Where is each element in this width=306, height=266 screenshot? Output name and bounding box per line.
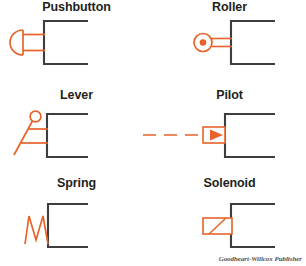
pushbutton-actuator-icon [0, 0, 153, 88]
pilot-dashed-lead-line [140, 88, 306, 176]
spring-actuator-icon [0, 176, 153, 264]
symbol-cell-pushbutton: Pushbutton [0, 0, 153, 88]
actuator-symbols-diagram: Pushbutton Roller Lever [0, 0, 306, 266]
symbol-cell-solenoid: Solenoid [153, 176, 306, 264]
publisher-credit: Goodheart-Willcox Publisher [219, 255, 302, 263]
symbol-cell-roller: Roller [153, 0, 306, 88]
symbol-cell-lever: Lever [0, 88, 153, 176]
roller-actuator-icon [153, 0, 306, 88]
solenoid-actuator-icon [153, 176, 306, 264]
symbol-cell-spring: Spring [0, 176, 153, 264]
lever-actuator-icon [0, 88, 153, 176]
